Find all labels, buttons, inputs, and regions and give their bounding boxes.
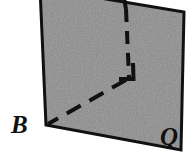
point-label-b: B	[11, 112, 28, 137]
geometry-figure: B Q	[0, 0, 193, 158]
perpendicular-line-solid	[124, 0, 126, 9]
plane-label-q: Q	[160, 124, 178, 149]
